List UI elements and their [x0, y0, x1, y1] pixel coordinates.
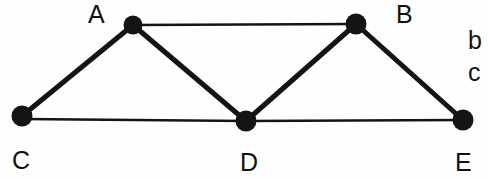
edge-a-b	[133, 24, 356, 25]
side-label-c: c	[468, 60, 481, 85]
node-c[interactable]	[12, 106, 33, 127]
node-a[interactable]	[124, 16, 143, 35]
node-label-e: E	[455, 150, 472, 175]
node-group	[12, 14, 474, 132]
edge-group	[22, 24, 463, 121]
side-label-b: b	[468, 28, 482, 53]
node-d[interactable]	[236, 111, 257, 132]
node-label-d: D	[240, 150, 258, 175]
edge-c-d	[22, 119, 246, 121]
edge-d-b	[246, 24, 356, 121]
diagram-canvas: A B C D E b c	[0, 0, 488, 179]
node-label-a: A	[88, 2, 105, 27]
edge-c-a	[22, 25, 133, 116]
node-e[interactable]	[453, 110, 474, 131]
edge-b-e	[356, 24, 463, 120]
edge-d-e	[246, 120, 463, 121]
edge-a-d	[133, 25, 246, 121]
node-label-b: B	[396, 2, 413, 27]
node-b[interactable]	[346, 14, 367, 35]
node-label-c: C	[12, 148, 30, 173]
